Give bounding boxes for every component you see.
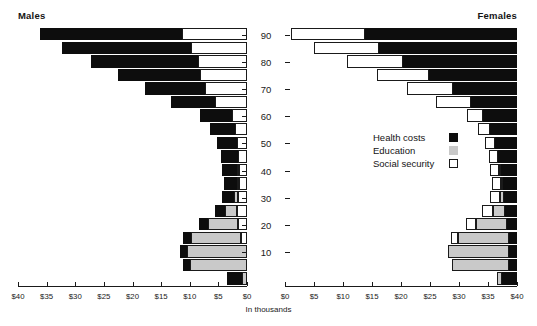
bar-segment-education	[448, 245, 509, 257]
bar-segment-social	[466, 218, 476, 230]
age-axis-tick-left	[242, 225, 247, 226]
bar-segment-social	[191, 42, 247, 54]
bar-segment-education	[493, 205, 506, 217]
age-axis-tick-left	[242, 116, 247, 117]
bar-segment-health	[210, 123, 235, 135]
axis-tick	[133, 282, 134, 286]
females-panel-title: Females	[478, 10, 517, 21]
bar-segment-health	[503, 177, 517, 189]
bar-segment-health	[509, 232, 517, 244]
bar-segment-health	[507, 218, 517, 230]
legend-swatch-icon	[449, 159, 458, 168]
bar-row	[18, 123, 247, 135]
axis-tick-label: $15	[155, 292, 168, 301]
bar-segment-social	[200, 69, 247, 81]
age-axis-tick-right	[285, 225, 290, 226]
bar-segment-social	[467, 109, 483, 121]
age-category-axis: 102030405060708090	[247, 28, 285, 286]
age-axis-label: 10	[247, 247, 285, 258]
age-axis-tick-left	[242, 198, 247, 199]
bar-segment-social	[215, 96, 247, 108]
bar-segment-health	[222, 164, 237, 176]
axis-tick	[47, 282, 48, 286]
bar-row	[285, 245, 517, 257]
axis-tick-label: $20	[394, 292, 407, 301]
axis-tick	[401, 282, 402, 286]
bar-segment-health	[453, 82, 517, 94]
bar-segment-health	[227, 272, 242, 284]
bar-segment-health	[40, 28, 182, 40]
bar-segment-health	[118, 69, 200, 81]
age-axis-tick-left	[242, 89, 247, 90]
bar-row	[285, 82, 517, 94]
bar-row	[18, 259, 247, 271]
axis-tick	[161, 282, 162, 286]
axis-tick	[372, 282, 373, 286]
bar-segment-social	[482, 205, 492, 217]
age-axis-label: 50	[247, 138, 285, 149]
axis-tick-label: $40	[510, 292, 523, 301]
axis-tick	[190, 282, 191, 286]
axis-tick	[459, 282, 460, 286]
bar-segment-health	[495, 137, 517, 149]
axis-tick	[517, 282, 518, 286]
bar-segment-social	[347, 55, 404, 67]
males-value-axis: $40$35$30$25$20$15$10$5$0	[18, 286, 247, 287]
legend-swatch-icon	[449, 146, 458, 155]
bar-segment-education	[191, 232, 240, 244]
bar-segment-health	[180, 245, 187, 257]
units-label: In thousands	[0, 305, 537, 314]
bar-segment-health	[403, 55, 517, 67]
axis-tick	[18, 282, 19, 286]
bar-segment-education	[187, 245, 247, 257]
males-plot-area	[18, 28, 247, 286]
axis-tick	[314, 282, 315, 286]
legend-item: Social security	[373, 157, 458, 170]
axis-tick-label: $10	[336, 292, 349, 301]
bar-segment-social	[235, 123, 247, 135]
bar-segment-health	[501, 164, 517, 176]
age-axis-label: 30	[247, 192, 285, 203]
bar-segment-education	[452, 259, 509, 271]
bar-segment-health	[183, 259, 190, 271]
bar-segment-social	[238, 150, 247, 162]
axis-tick	[285, 282, 286, 286]
bar-segment-health	[145, 82, 205, 94]
legend-item: Health costs	[373, 131, 458, 144]
age-axis-tick-left	[242, 62, 247, 63]
bar-segment-social	[205, 82, 247, 94]
males-panel-title: Males	[18, 10, 45, 21]
axis-tick-label: $35	[40, 292, 53, 301]
axis-tick-label: $5	[214, 292, 223, 301]
bar-row	[18, 177, 247, 189]
bar-segment-social	[239, 177, 247, 189]
bar-row	[18, 218, 247, 230]
bar-segment-health	[171, 96, 215, 108]
bar-segment-education	[225, 205, 237, 217]
bar-segment-social	[407, 82, 453, 94]
bar-segment-health	[509, 259, 517, 271]
bar-row	[18, 205, 247, 217]
bar-row	[285, 259, 517, 271]
bar-segment-health	[217, 137, 238, 149]
bar-segment-health	[471, 96, 517, 108]
bar-segment-social	[198, 55, 247, 67]
bar-row	[18, 82, 247, 94]
age-axis-tick-left	[242, 252, 247, 253]
axis-tick-label: $30	[69, 292, 82, 301]
bar-row	[18, 245, 247, 257]
axis-tick-label: $40	[11, 292, 24, 301]
bar-segment-health	[224, 177, 237, 189]
bar-segment-health	[365, 28, 517, 40]
bar-row	[285, 28, 517, 40]
age-axis-label: 70	[247, 84, 285, 95]
bar-row	[285, 218, 517, 230]
bar-row	[18, 42, 247, 54]
bar-segment-health	[379, 42, 517, 54]
age-axis-tick-left	[242, 35, 247, 36]
axis-tick-label: $35	[481, 292, 494, 301]
bar-segment-health	[222, 191, 233, 203]
bar-row	[18, 191, 247, 203]
age-axis-tick-right	[285, 35, 290, 36]
axis-tick	[75, 282, 76, 286]
